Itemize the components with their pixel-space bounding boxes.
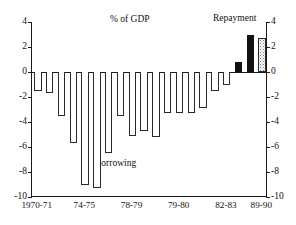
y-tick	[266, 47, 270, 48]
x-tick-label: 89-90	[251, 200, 272, 210]
y-tick-label: 0	[22, 67, 27, 77]
bar-1979-80	[140, 72, 147, 131]
y-tick-label: -6	[19, 142, 27, 152]
y-tick	[28, 22, 32, 23]
x-tick-label: 82-83	[215, 200, 236, 210]
y-tick	[28, 172, 32, 173]
y-tick-label: -8	[271, 167, 279, 177]
zero-baseline	[32, 72, 266, 73]
y-tick-label: -6	[271, 142, 279, 152]
bar-1972-73	[58, 72, 65, 116]
bar-82-83	[223, 72, 230, 85]
bar-1983-84	[188, 72, 195, 113]
y-tick	[266, 72, 270, 73]
y-tick-label: 0	[271, 67, 276, 77]
y-tick	[266, 147, 270, 148]
y-tick-label: 2	[22, 42, 27, 52]
bar-1988-89	[247, 35, 254, 73]
y-tick-label: -8	[19, 167, 27, 177]
y-tick-label: -4	[19, 117, 27, 127]
bar-1975-76	[93, 72, 100, 188]
bar-1985-86	[211, 72, 218, 91]
bar-1987-88	[235, 62, 242, 72]
bar-1984-85	[199, 72, 206, 108]
bar-1981-82	[164, 72, 171, 113]
bar-78-79	[129, 72, 136, 136]
y-tick-label: -10	[271, 192, 284, 202]
y-tick-label: -2	[271, 92, 279, 102]
y-tick	[266, 22, 270, 23]
y-tick	[266, 172, 270, 173]
y-tick	[266, 122, 270, 123]
bar-1976-77	[105, 72, 112, 153]
y-tick	[28, 47, 32, 48]
chart-figure: % of GDP Repayment Borrowing 420-2-4-6-8…	[0, 0, 296, 225]
bar-1980-81	[152, 72, 159, 137]
y-tick	[28, 147, 32, 148]
y-tick-label: 2	[271, 42, 276, 52]
x-tick-label: 78-79	[121, 200, 142, 210]
bar-1970-71	[34, 72, 41, 91]
x-tick-label: 79-80	[168, 200, 189, 210]
y-tick-label: 4	[22, 17, 27, 27]
bar-1977-78	[117, 72, 124, 116]
y-tick	[28, 72, 32, 73]
bar-79-80	[176, 72, 183, 113]
y-tick	[266, 97, 270, 98]
y-tick-label: 4	[271, 17, 276, 27]
bar-1973-74	[70, 72, 77, 143]
bar-1971-72	[46, 72, 53, 93]
plot-area: 420-2-4-6-8-10 420-2-4-6-8-10	[31, 22, 267, 197]
bar-74-75	[81, 72, 88, 185]
y-tick-label: -2	[19, 92, 27, 102]
x-tick-label: 74-75	[74, 200, 95, 210]
y-tick-label: -4	[271, 117, 279, 127]
x-tick-label: 1970-71	[21, 200, 52, 210]
y-tick	[28, 122, 32, 123]
y-tick	[28, 197, 32, 198]
bar-89-90	[258, 38, 265, 72]
y-tick	[28, 97, 32, 98]
y-tick	[266, 197, 270, 198]
